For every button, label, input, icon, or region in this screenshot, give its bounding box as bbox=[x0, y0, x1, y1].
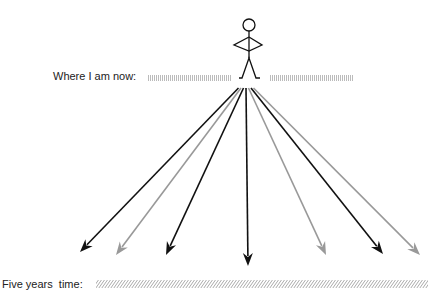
arrows-group bbox=[80, 88, 420, 266]
arrow-line bbox=[254, 88, 413, 248]
arrow-line bbox=[246, 88, 248, 256]
present-line-right bbox=[270, 75, 354, 81]
present-line-left bbox=[148, 75, 232, 81]
arrowhead-icon bbox=[116, 242, 128, 255]
arrow-line bbox=[249, 88, 322, 246]
arrowhead-icon bbox=[371, 241, 383, 254]
arrow-line bbox=[251, 88, 377, 246]
arrow-line bbox=[87, 88, 239, 245]
future-line bbox=[96, 280, 428, 288]
stick-figure-icon bbox=[234, 19, 262, 78]
diagram-canvas bbox=[0, 0, 444, 295]
